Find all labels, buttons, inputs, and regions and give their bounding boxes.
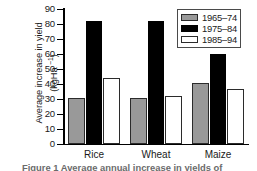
legend-item: 1975–84	[181, 23, 237, 34]
bar	[227, 89, 244, 145]
gray-swatch	[181, 14, 198, 21]
bar	[210, 54, 227, 144]
bar	[86, 21, 103, 144]
bar	[148, 21, 165, 144]
legend-item: 1985–94	[181, 34, 237, 45]
bar	[68, 98, 85, 145]
legend-item: 1965–74	[181, 12, 237, 23]
bar	[103, 78, 120, 144]
figure-bar-chart: Average increase in yield (kgHa −1) 0102…	[0, 0, 257, 171]
y-axis-tick-label: 30	[15, 94, 55, 104]
y-axis-tick-label: 50	[15, 64, 55, 74]
legend: 1965–741975–841985–94	[177, 9, 241, 48]
y-axis-tick-label: 40	[15, 79, 55, 89]
x-axis-category-label-rice: Rice	[64, 149, 124, 160]
y-axis-tick-label: 60	[15, 49, 55, 59]
black-swatch	[181, 25, 198, 32]
bar	[165, 96, 182, 144]
x-axis-category-label-wheat: Wheat	[126, 149, 186, 160]
bar-group	[63, 9, 125, 144]
legend-item-label: 1985–94	[202, 35, 237, 44]
y-axis-tick-label: 70	[15, 34, 55, 44]
y-axis-tick-label: 0	[15, 139, 55, 149]
legend-item-label: 1975–84	[202, 24, 237, 33]
y-axis-tick-label: 80	[15, 19, 55, 29]
bar	[130, 98, 147, 145]
x-axis-category-label-maize: Maize	[188, 149, 248, 160]
y-axis-tick-label: 10	[15, 124, 55, 134]
y-axis-tick-label: 20	[15, 109, 55, 119]
figure-caption: Figure 1 Average annual increase in yiel…	[22, 163, 257, 171]
white-swatch	[181, 36, 198, 43]
y-axis-tick-label: 90	[15, 4, 55, 14]
bar	[192, 83, 209, 145]
legend-item-label: 1965–74	[202, 13, 237, 22]
